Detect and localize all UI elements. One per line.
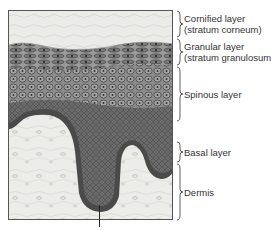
label-basal-layer: Basal layer xyxy=(184,147,231,158)
label-cornified-layer: Cornified layer (stratum corneum) xyxy=(184,13,262,35)
skin-illustration xyxy=(8,10,173,220)
label-dermis: Dermis xyxy=(184,187,214,198)
label-granular-layer: Granular layer (stratum granulosum) xyxy=(184,41,271,63)
basal-brace-icon xyxy=(176,141,184,163)
basal-pointer-line xyxy=(99,205,100,227)
skin-layers-drawing xyxy=(9,11,173,220)
granular-brace-icon xyxy=(176,38,184,66)
cornified-brace-icon xyxy=(176,10,184,38)
spinous-brace-icon xyxy=(176,66,184,122)
label-spinous-layer: Spinous layer xyxy=(184,89,242,100)
dermis-brace-icon xyxy=(176,163,184,221)
